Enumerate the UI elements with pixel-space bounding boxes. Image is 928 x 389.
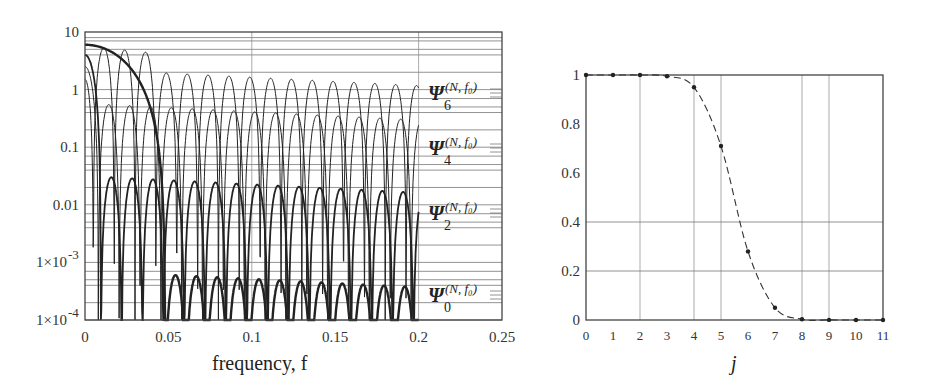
svg-text:6: 6 xyxy=(444,98,451,113)
x-tick-label: 0 xyxy=(81,329,89,345)
y-tick-label: 0.1 xyxy=(60,139,79,155)
y-tick-label: 0.2 xyxy=(561,263,580,279)
x-tick-label: 0 xyxy=(583,328,590,343)
x-tick-label: 9 xyxy=(826,328,833,343)
x-tick-label: 0.1 xyxy=(242,329,261,345)
data-point-marker xyxy=(881,318,885,322)
right-chart-x-label: j xyxy=(728,352,737,375)
data-point-marker xyxy=(665,74,669,78)
y-tick-label: 0.4 xyxy=(561,214,580,230)
right-chart-x-axis: 01234567891011 xyxy=(583,328,890,343)
left-chart-spectrum: 1010.10.011×10-31×10-4 00.050.10.150.20.… xyxy=(36,24,515,375)
x-tick-label: 8 xyxy=(799,328,806,343)
data-point-marker xyxy=(584,73,588,77)
y-tick-label: 0.6 xyxy=(561,165,580,181)
x-tick-label: 7 xyxy=(772,328,779,343)
data-point-marker xyxy=(719,144,723,148)
svg-text:0: 0 xyxy=(444,300,451,315)
right-chart-frame xyxy=(586,75,883,320)
x-tick-label: 1 xyxy=(610,328,617,343)
left-chart-y-axis: 1010.10.011×10-31×10-4 xyxy=(36,24,79,328)
x-tick-label: 2 xyxy=(637,328,644,343)
y-tick-label: 0.8 xyxy=(561,116,580,132)
x-tick-label: 6 xyxy=(745,328,752,343)
x-tick-label: 3 xyxy=(664,328,671,343)
y-tick-label: 1 xyxy=(72,82,80,98)
left-chart-gridlines xyxy=(85,32,502,320)
series-label-psi-4: Ψ4(N, f₀) xyxy=(428,134,502,168)
y-tick-label: 1×10 xyxy=(36,254,67,270)
data-point-marker xyxy=(638,73,642,77)
y-tick-label: 10 xyxy=(64,24,79,40)
y-tick-label: 1 xyxy=(573,67,581,83)
x-tick-label: 0.2 xyxy=(409,329,428,345)
svg-text:4: 4 xyxy=(444,153,451,168)
figure: 1010.10.011×10-31×10-4 00.050.10.150.20.… xyxy=(0,0,928,389)
series-label-psi-0: Ψ0(N, f₀) xyxy=(428,281,502,315)
x-tick-label: 0.25 xyxy=(489,329,515,345)
series-label-psi-6: Ψ6(N, f₀) xyxy=(428,79,502,113)
y-tick-exponent: -3 xyxy=(68,247,79,262)
data-point-marker xyxy=(800,317,804,321)
y-tick-label: 1×10 xyxy=(36,312,67,328)
right-chart-y-axis: 00.20.40.60.81 xyxy=(561,67,580,328)
x-tick-label: 5 xyxy=(718,328,725,343)
svg-text:(N, f₀): (N, f₀) xyxy=(445,199,477,214)
x-tick-label: 11 xyxy=(877,328,890,343)
x-tick-label: 10 xyxy=(850,328,863,343)
left-chart-x-axis: 00.050.10.150.20.25 xyxy=(81,329,515,345)
y-tick-label: 0.01 xyxy=(53,197,79,213)
right-chart-gridlines xyxy=(586,75,883,320)
left-chart-frame xyxy=(85,32,502,320)
y-tick-label: 0 xyxy=(573,312,581,328)
x-tick-label: 0.05 xyxy=(155,329,181,345)
data-point-marker xyxy=(692,85,696,89)
eigenvalue-dashed-line xyxy=(586,75,883,320)
left-chart-x-label: frequency, f xyxy=(212,352,308,375)
right-chart-series xyxy=(584,73,885,322)
data-point-marker xyxy=(746,249,750,253)
right-chart-eigenvalues: 00.20.40.60.81 01234567891011 j xyxy=(561,67,889,375)
data-point-marker xyxy=(827,318,831,322)
y-tick-exponent: -4 xyxy=(68,305,79,320)
data-point-marker xyxy=(854,318,858,322)
data-point-marker xyxy=(773,306,777,310)
svg-text:2: 2 xyxy=(444,218,451,233)
data-point-marker xyxy=(611,73,615,77)
svg-text:(N, f₀): (N, f₀) xyxy=(445,79,477,94)
svg-text:(N, f₀): (N, f₀) xyxy=(445,281,477,296)
svg-text:(N, f₀): (N, f₀) xyxy=(445,134,477,149)
x-tick-label: 0.15 xyxy=(322,329,348,345)
x-tick-label: 4 xyxy=(691,328,698,343)
